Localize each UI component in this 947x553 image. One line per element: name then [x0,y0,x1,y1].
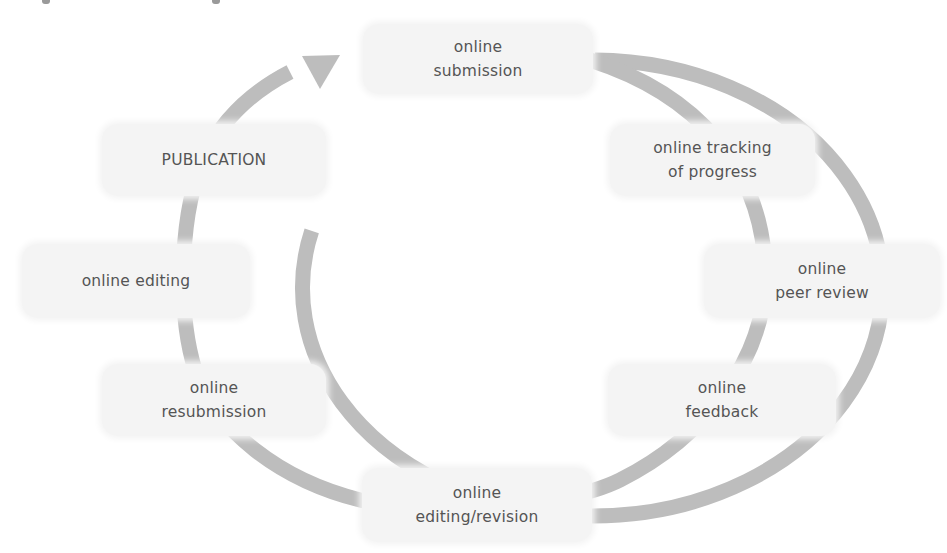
node-online-editing: online editing [22,244,250,318]
node-online-editing-revision: online editing/revision [362,468,592,542]
node-publication: PUBLICATION [102,124,326,196]
node-online-resubmission: online resubmission [102,364,326,436]
node-online-feedback: online feedback [608,364,836,436]
node-online-submission: online submission [363,24,593,94]
node-online-tracking-of-progress: online tracking of progress [610,124,815,196]
arrow-head-icon [302,55,340,89]
node-online-peer-review: online peer review [704,244,940,318]
